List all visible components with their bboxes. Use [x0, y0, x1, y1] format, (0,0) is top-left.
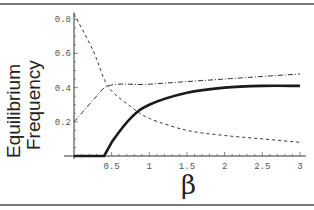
- series-dashed-line: [74, 14, 300, 142]
- x-tick-label: 3: [297, 162, 302, 172]
- y-tick-label: 0.2: [55, 118, 71, 128]
- y-axis-label: Equilibrium Frequency: [4, 40, 54, 160]
- x-tick-label: 0.5: [104, 162, 120, 172]
- x-tick-label: 1: [147, 162, 152, 172]
- series-solid-line: [74, 86, 300, 156]
- y-axis-label-line1: Equilibrium: [4, 64, 23, 158]
- x-tick-label: 2.5: [254, 162, 270, 172]
- x-axis-label: β: [181, 170, 196, 200]
- y-tick-label: 0.8: [55, 15, 71, 25]
- y-tick-label: 0.4: [55, 84, 71, 94]
- y-axis-label-line2: Frequency: [24, 60, 43, 150]
- x-tick-label: 2: [222, 162, 227, 172]
- series-dash-dot-line: [74, 74, 300, 122]
- y-tick-label: 0.6: [55, 49, 71, 59]
